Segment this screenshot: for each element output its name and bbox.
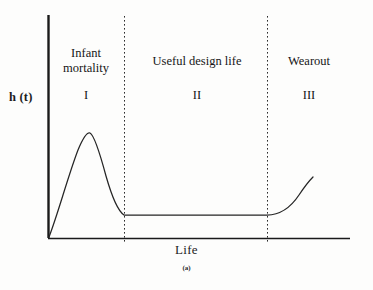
region-numeral-2: II — [128, 88, 266, 103]
region-label-wearout: Wearout — [271, 54, 347, 69]
region-numeral-3: III — [271, 88, 347, 103]
region-label-infant-mortality: Infant mortality — [52, 46, 120, 77]
hazard-rate-curve — [49, 133, 313, 237]
region-label-useful-design-life: Useful design life — [128, 54, 266, 69]
bathtub-curve-figure: h (t) Infant mortality Useful design lif… — [0, 0, 373, 290]
region-label-infant-mortality-line1: Infant — [52, 46, 120, 61]
figure-caption: (a) — [0, 264, 373, 272]
region-numeral-1: I — [52, 88, 120, 103]
x-axis-label: Life — [0, 243, 373, 258]
y-axis-label: h (t) — [9, 90, 33, 104]
region-label-infant-mortality-line2: mortality — [52, 61, 120, 76]
